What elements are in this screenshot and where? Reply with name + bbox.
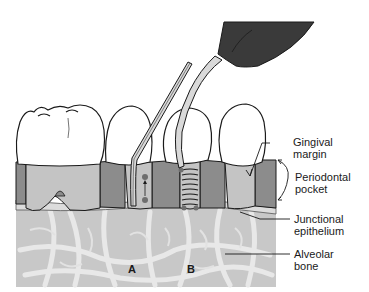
label-gingival: Gingival xyxy=(293,136,333,148)
label-margin: margin xyxy=(293,148,333,160)
label-junctional: Junctional xyxy=(294,213,344,225)
label-junctional-epithelium: Junctional epithelium xyxy=(294,213,344,237)
probe-a-lower-mark xyxy=(142,197,148,203)
alveolar-bone xyxy=(16,205,276,287)
marker-b: B xyxy=(187,263,195,275)
marker-a: A xyxy=(128,263,136,275)
probe-a-upper-mark xyxy=(142,174,148,180)
probe-b-tip-mark xyxy=(182,206,187,211)
label-alveolar: Alveolar xyxy=(294,248,334,260)
label-bone: bone xyxy=(294,260,334,272)
label-epithelium: epithelium xyxy=(294,225,344,237)
label-periodontal-pocket: Periodontal pocket xyxy=(295,171,351,195)
label-gingival-margin: Gingival margin xyxy=(293,136,333,160)
handpiece xyxy=(218,22,314,67)
tooth-crowns xyxy=(16,104,265,166)
label-alveolar-bone: Alveolar bone xyxy=(294,248,334,272)
label-periodontal: Periodontal xyxy=(295,171,351,183)
probe-b-tip-mark-2 xyxy=(194,206,199,211)
label-pocket: pocket xyxy=(295,183,351,195)
